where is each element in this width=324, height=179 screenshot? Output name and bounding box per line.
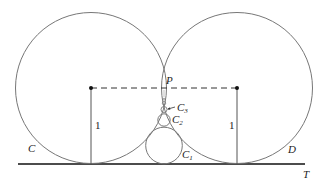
tangent-circles-diagram: P C3 C2 C1 1 1 C D T — [0, 0, 324, 179]
label-c1: C1 — [182, 148, 193, 162]
label-t: T — [303, 168, 310, 179]
circle-c5 — [163, 98, 165, 100]
label-d: D — [287, 143, 296, 155]
center-dot-left — [89, 86, 93, 90]
label-c2: C2 — [172, 113, 183, 127]
c3-pointer-arrowhead — [167, 107, 170, 110]
label-radius-right: 1 — [229, 119, 235, 131]
center-dot-right — [235, 86, 239, 90]
circle-c1 — [146, 127, 183, 164]
label-radius-left: 1 — [95, 119, 101, 131]
label-c: C — [28, 142, 36, 154]
label-p: P — [165, 74, 173, 86]
